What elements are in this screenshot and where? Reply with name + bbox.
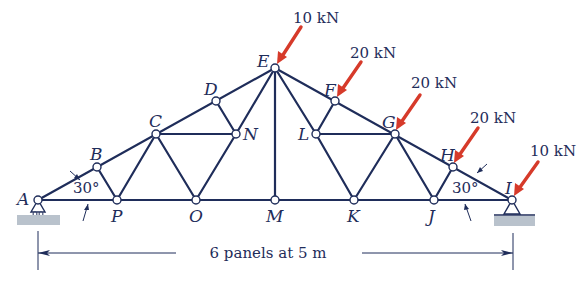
applied-loads: 10 kN 20 kN 20 kN 20 kN 10 kN — [277, 9, 576, 196]
left-ground — [17, 215, 60, 225]
load-E: 10 kN — [277, 9, 339, 64]
member-KG — [354, 134, 395, 200]
load-G: 20 kN — [396, 74, 457, 130]
label-H: H — [439, 145, 456, 165]
load-E-label: 10 kN — [293, 9, 339, 27]
joint-P — [113, 196, 121, 204]
load-F-label: 20 kN — [350, 44, 396, 62]
member-LK — [316, 134, 354, 200]
member-GJ — [395, 134, 434, 200]
joint-J — [430, 196, 438, 204]
joint-B — [93, 163, 101, 171]
angle-right-label: 30° — [452, 179, 479, 197]
load-G-label: 20 kN — [411, 74, 457, 92]
member-EL — [275, 68, 316, 134]
load-I: 10 kN — [514, 142, 576, 196]
member-DN — [216, 101, 236, 134]
load-I-label: 10 kN — [530, 142, 576, 160]
load-H: 20 kN — [454, 109, 516, 163]
label-A: A — [15, 189, 29, 209]
label-L: L — [297, 124, 309, 144]
label-P: P — [110, 206, 123, 226]
label-J: J — [425, 206, 436, 226]
joint-N — [232, 130, 240, 138]
joint-O — [192, 196, 200, 204]
label-C: C — [149, 111, 162, 131]
joint-K — [350, 196, 358, 204]
label-B: B — [89, 144, 103, 164]
truss-diagram: A B C D E F G H I J K L M N O P 30° 30° — [0, 0, 582, 289]
joint-E — [271, 64, 279, 72]
member-ON — [196, 134, 236, 200]
right-ground — [494, 216, 535, 226]
joint-M — [271, 196, 279, 204]
member-BP — [97, 167, 117, 200]
load-F: 20 kN — [337, 44, 396, 97]
dimension-label: 6 panels at 5 m — [210, 244, 327, 262]
label-I: I — [504, 178, 512, 198]
label-M: M — [265, 206, 284, 226]
label-D: D — [203, 79, 218, 99]
dimension-line: 6 panels at 5 m — [38, 231, 513, 270]
joint-A — [34, 196, 42, 204]
load-H-label: 20 kN — [470, 109, 516, 127]
member-LF — [316, 101, 335, 134]
angle-left-label: 30° — [73, 179, 100, 197]
label-N: N — [242, 124, 259, 144]
joint-L — [312, 130, 320, 138]
label-G: G — [382, 112, 396, 132]
label-K: K — [346, 206, 361, 226]
joint-C — [152, 130, 160, 138]
label-E: E — [256, 51, 270, 71]
member-JH — [434, 167, 453, 200]
label-F: F — [323, 80, 337, 100]
label-O: O — [189, 206, 203, 226]
member-CO — [156, 134, 196, 200]
